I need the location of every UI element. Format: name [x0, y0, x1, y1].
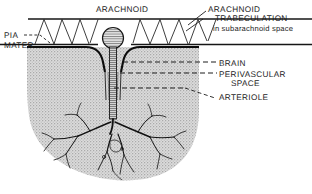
label-perivascular-space-line2: SPACE [231, 79, 260, 89]
anatomical-figure: ARACHNOID PIAMATER ARACHNOID TRABECULATI… [0, 0, 312, 194]
label-pia-mater: PIAMATER [4, 31, 34, 50]
label-arachnoid-trabeculation-line2: TRABECULATION [215, 14, 288, 24]
label-arteriole: ARTERIOLE [219, 93, 268, 103]
label-pia-line2: MATER [4, 41, 34, 50]
label-pia-line1: PIA [4, 31, 18, 40]
label-in-subarachnoid-space: in subarachnoid space [213, 24, 293, 34]
arteriole-bulb [103, 28, 124, 49]
label-brain: BRAIN [219, 59, 246, 69]
label-arachnoid: ARACHNOID [96, 5, 148, 15]
arachnoid-trabeculations [35, 20, 216, 45]
arteriole-trunk [110, 47, 117, 119]
